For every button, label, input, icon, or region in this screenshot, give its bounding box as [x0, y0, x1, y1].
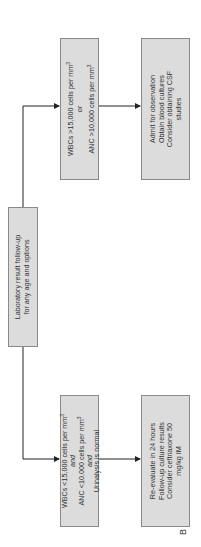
high-connector: or: [75, 62, 84, 156]
high-count-node: WBCs >15,000 cells per mm3 or ANC >10,00…: [60, 38, 99, 180]
low-action-line: mg/kg IM: [174, 422, 183, 500]
high-anc-criterion: ANC >10,000 cells per mm3: [84, 62, 96, 156]
high-action-line: Admit for observation: [148, 71, 157, 147]
panel-label: B: [178, 529, 188, 535]
high-action-line: Consider obtaining CSF: [166, 71, 175, 147]
root-line-2: for any age and options: [23, 235, 32, 320]
low-action-line: Consider ceftriaxone 50: [166, 422, 175, 500]
high-action-line: studies: [174, 71, 183, 147]
high-wbc-criterion: WBCs >15,000 cells per mm3: [63, 62, 75, 156]
low-action-line: Re-evaluate in 24 hours: [148, 422, 157, 500]
high-action-node: Admit for observation Obtain blood cultu…: [141, 38, 190, 180]
low-action-node: Re-evaluate in 24 hours Follow-up cultur…: [141, 395, 190, 527]
low-count-node: WBCs <15,000 cells per mm3 and ANC <10,0…: [60, 395, 99, 527]
low-urinalysis-criterion: Urinalysis is normal: [93, 414, 100, 508]
low-connector-1: and: [68, 414, 75, 508]
root-node: Laboratory result follow-up for any age …: [8, 207, 38, 347]
